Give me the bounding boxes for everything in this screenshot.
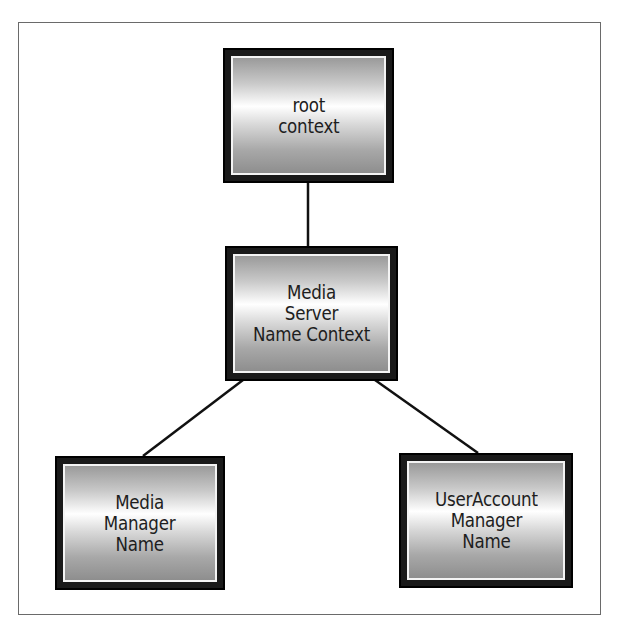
node-label: Media Server Name Context	[253, 282, 370, 345]
node-root-context: root context	[223, 48, 394, 183]
node-useraccount-manager-name: UserAccount Manager Name	[399, 453, 573, 588]
node-label: root context	[278, 95, 339, 137]
node-label: Media Manager Name	[104, 492, 175, 555]
node-media-server-name-context: Media Server Name Context	[225, 246, 398, 381]
node-label: UserAccount Manager Name	[435, 489, 538, 552]
node-media-manager-name: Media Manager Name	[55, 456, 225, 590]
